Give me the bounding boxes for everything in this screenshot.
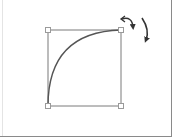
handle-top-left[interactable] bbox=[46, 28, 51, 33]
handle-top-right[interactable] bbox=[119, 28, 124, 33]
shape-illustration bbox=[0, 0, 174, 140]
handle-bottom-right[interactable] bbox=[119, 104, 124, 109]
arc-curve bbox=[48, 30, 121, 106]
rotate-left-arrow-icon bbox=[121, 16, 133, 27]
handle-bottom-left[interactable] bbox=[46, 104, 51, 109]
rotate-right-arrow-icon bbox=[142, 18, 147, 40]
bounding-box bbox=[48, 30, 121, 106]
diagram-canvas bbox=[0, 0, 174, 140]
